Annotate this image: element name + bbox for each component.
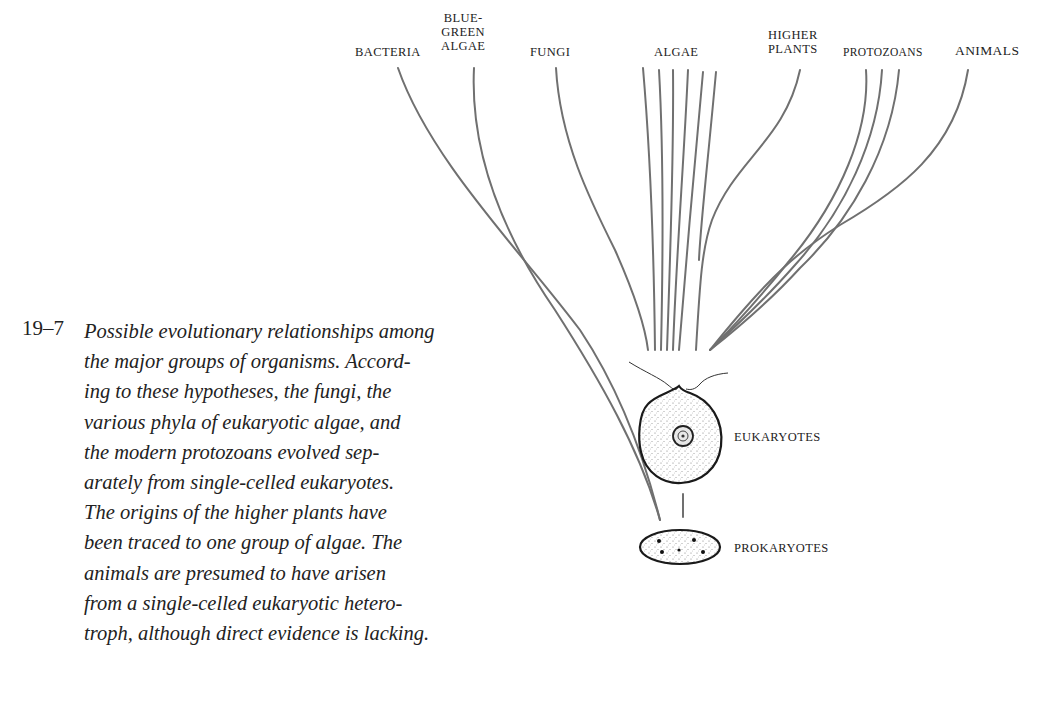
branch-protozoan-1	[710, 70, 866, 350]
branch-protozoan-2	[710, 70, 882, 350]
branch-algae-2	[659, 70, 663, 350]
branch-protozoan-3	[710, 70, 899, 350]
caption-line: animals are presumed to have arisen	[84, 558, 604, 588]
branch-algae-4	[673, 70, 688, 350]
caption-line: Possible evolutionary relationships amon…	[84, 316, 604, 346]
label-prokaryotes: PROKARYOTES	[734, 541, 829, 555]
figure-number: 19–7	[22, 316, 64, 341]
branch-fungi	[556, 68, 648, 350]
caption-line: troph, although direct evidence is lacki…	[84, 618, 604, 648]
caption-line: the modern protozoans evolved sep-	[84, 437, 604, 467]
caption-line: The origins of the higher plants have	[84, 497, 604, 527]
branch-algae-3	[667, 70, 673, 350]
label-eukaryotes: EUKARYOTES	[734, 430, 821, 444]
caption-line: from a single-celled eukaryotic hetero-	[84, 588, 604, 618]
caption-line: the major groups of organisms. Accord-	[84, 346, 604, 376]
caption-line: ing to these hypotheses, the fungi, the	[84, 376, 604, 406]
figure-caption: Possible evolutionary relationships amon…	[84, 316, 604, 648]
flagellum-left-icon	[629, 362, 678, 390]
caption-line: various phyla of eukaryotic algae, and	[84, 407, 604, 437]
caption-line: arately from single-celled eukaryotes.	[84, 467, 604, 497]
prokaryote-cell-body	[640, 530, 720, 564]
flagellum-right-icon	[686, 373, 728, 389]
branch-algae-1	[643, 68, 655, 350]
prokaryote-cell-illustration	[640, 530, 720, 564]
caption-line: been traced to one group of algae. The	[84, 527, 604, 557]
